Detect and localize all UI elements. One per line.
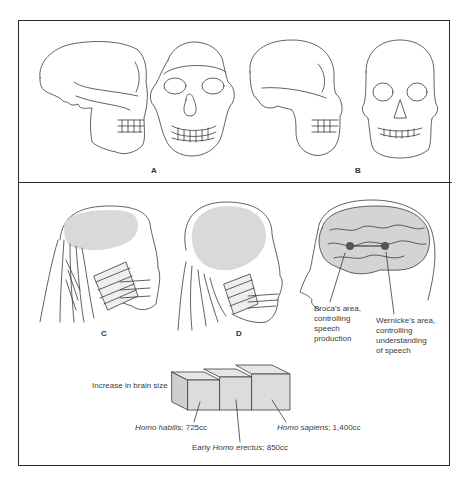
skull-a-profile-icon bbox=[40, 42, 148, 154]
label-d: D bbox=[236, 329, 242, 338]
label-b: B bbox=[355, 166, 361, 175]
habilis-label: Homo habilis; 725cc bbox=[135, 423, 207, 433]
label-a: A bbox=[151, 166, 157, 175]
skull-a-front-icon bbox=[150, 42, 234, 156]
brain-head-icon bbox=[300, 200, 435, 314]
skull-b-profile-icon bbox=[250, 40, 342, 155]
illustrations bbox=[0, 0, 469, 484]
wernicke-annotation: Wernicke's area, controlling understandi… bbox=[376, 316, 435, 356]
label-c: C bbox=[101, 329, 107, 338]
head-c-icon bbox=[40, 206, 160, 322]
broca-annotation: Broca's area, controlling speech product… bbox=[314, 304, 361, 344]
skull-b-front-icon bbox=[362, 40, 437, 158]
head-d-icon bbox=[178, 202, 282, 330]
sapiens-label: Homo sapiens; 1,400cc bbox=[277, 423, 361, 433]
brain-size-title: Increase in brain size bbox=[92, 381, 168, 391]
erectus-label: Early Homo erectus; 850cc bbox=[192, 443, 288, 453]
